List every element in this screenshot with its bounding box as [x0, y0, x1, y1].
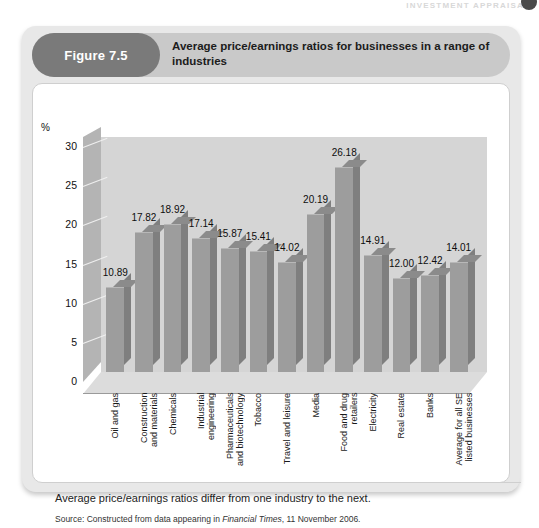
bar: 14.01	[450, 262, 468, 372]
bar-side-face	[239, 234, 246, 365]
x-axis-label: Travel and leisure	[282, 393, 292, 464]
x-axis-label: Media	[311, 393, 321, 418]
source-prefix: Source: Constructed from data appearing …	[55, 514, 222, 524]
bar-front-face	[106, 287, 124, 372]
bar: 17.82	[135, 232, 153, 372]
bar-value-label: 20.19	[303, 194, 328, 205]
x-axis-label: Industrial engineering	[196, 393, 216, 440]
bar-front-face	[278, 262, 296, 372]
y-axis-tick: 25	[51, 179, 77, 191]
bar: 15.41	[250, 251, 268, 372]
bar: 12.00	[393, 278, 411, 372]
figure-title: Average price/earnings ratios for busine…	[172, 39, 502, 69]
y-axis-tick: 20	[51, 218, 77, 230]
bar: 20.19	[307, 214, 325, 372]
bar-front-face	[421, 275, 439, 372]
x-axis-label: Real estate	[396, 393, 406, 439]
bar-front-face	[393, 278, 411, 372]
bar-chart: % 051015202530 10.8917.8218.9217.1415.87…	[33, 84, 511, 389]
bar-value-label: 10.89	[103, 267, 128, 278]
figure-card: Figure 7.5 Average price/earnings ratios…	[22, 26, 520, 492]
bar-front-face	[192, 238, 210, 372]
bar: 12.42	[421, 275, 439, 372]
figure-header: Figure 7.5 Average price/earnings ratios…	[32, 33, 510, 77]
bar-front-face	[164, 224, 182, 372]
y-axis-tick: 5	[51, 336, 77, 348]
bar-front-face	[250, 251, 268, 372]
figure-panel: % 051015202530 10.8917.8218.9217.1415.87…	[32, 83, 510, 483]
y-axis-tick: 15	[51, 258, 77, 270]
running-head: INVESTMENT APPRAISAL	[330, 0, 530, 12]
bar-value-label: 15.41	[246, 231, 271, 242]
bar: 26.18	[335, 167, 353, 372]
x-axis-label: Tobacco	[253, 393, 263, 427]
x-axis-labels: Oil and gasConstruction and materialsChe…	[33, 389, 511, 484]
bar-value-label: 12.42	[418, 255, 443, 266]
bar-front-face	[364, 255, 382, 372]
bar-side-face	[296, 248, 303, 365]
bar-side-face	[439, 261, 446, 365]
bar-front-face	[335, 167, 353, 372]
panel-divider	[43, 482, 521, 483]
y-axis-tick: 10	[51, 297, 77, 309]
figure-number-badge: Figure 7.5	[32, 33, 160, 77]
x-axis-label: Banks	[425, 393, 435, 418]
bar-side-face	[353, 153, 360, 365]
bar-value-label: 26.18	[332, 147, 357, 158]
bar-value-label: 14.01	[446, 242, 471, 253]
bar-value-label: 15.87	[217, 228, 242, 239]
bar-value-label: 18.92	[160, 204, 185, 215]
y-axis-tick: 30	[51, 140, 77, 152]
bar-front-face	[450, 262, 468, 372]
bar: 18.92	[164, 224, 182, 372]
bar: 17.14	[192, 238, 210, 372]
bar: 14.02	[278, 262, 296, 372]
page-corner-tab	[521, 0, 537, 10]
bar-side-face	[181, 210, 188, 365]
x-axis-label: Construction and materials	[139, 393, 159, 447]
bar-side-face	[324, 200, 331, 365]
bar-value-label: 17.82	[131, 212, 156, 223]
x-axis-label: Food and drug retailers	[339, 393, 359, 452]
y-axis-unit-label: %	[41, 122, 50, 133]
bar-side-face	[267, 237, 274, 365]
bar-side-face	[382, 241, 389, 365]
bar-front-face	[221, 248, 239, 372]
bar: 10.89	[106, 287, 124, 372]
bar-value-label: 14.91	[360, 235, 385, 246]
x-axis-label: Chemicals	[168, 393, 178, 435]
bar-side-face	[153, 218, 160, 365]
figure-caption: Average price/earnings ratios differ fro…	[55, 492, 505, 504]
source-publication: Financial Times	[222, 514, 281, 524]
x-axis-label: Oil and gas	[110, 393, 120, 439]
plot-left-wall	[83, 127, 101, 382]
bar-side-face	[410, 264, 417, 365]
x-axis-label: Average for all SE listed businesses	[454, 393, 474, 465]
bar-side-face	[468, 248, 475, 365]
figure-source: Source: Constructed from data appearing …	[55, 514, 505, 524]
bar: 15.87	[221, 248, 239, 372]
bar-front-face	[307, 214, 325, 372]
bar-value-label: 12.00	[389, 258, 414, 269]
figure-screenshot: INVESTMENT APPRAISAL Figure 7.5 Average …	[0, 0, 539, 528]
x-axis-label: Electricity	[368, 393, 378, 432]
y-axis-tick: 0	[51, 375, 77, 387]
bar-side-face	[210, 224, 217, 365]
bar-front-face	[135, 232, 153, 372]
bar: 14.91	[364, 255, 382, 372]
bar-value-label: 14.02	[274, 242, 299, 253]
x-axis-label: Pharmaceuticals and biotechnology	[225, 393, 245, 466]
bar-value-label: 17.14	[189, 218, 214, 229]
source-suffix: , 11 November 2006.	[282, 514, 361, 524]
